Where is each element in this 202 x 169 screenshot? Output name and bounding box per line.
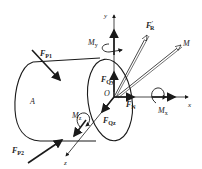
my-curl-icon bbox=[102, 44, 122, 52]
mz-label: Mz bbox=[71, 111, 82, 121]
fp1-label: FP1 bbox=[39, 49, 52, 59]
fp2-label: FP2 bbox=[11, 146, 24, 156]
fn-label: FN bbox=[125, 100, 136, 110]
mx-label: Mx bbox=[157, 106, 168, 116]
z-axis-label: z bbox=[63, 159, 67, 167]
free-body-diagram: A O y x z FP1 FP2 F'R M My Mx Mz FQy FQz… bbox=[0, 0, 202, 169]
body-label: A bbox=[29, 97, 35, 106]
fr-prime-arrow-inner bbox=[116, 36, 149, 97]
moment-resultant-arrow-inner bbox=[118, 47, 182, 98]
fqz-label: FQz bbox=[102, 116, 116, 126]
moment-resultant-arrow bbox=[116, 45, 181, 97]
labels: A O y x z FP1 FP2 F'R M My Mx Mz FQy FQz… bbox=[11, 12, 192, 167]
x-axis-label: x bbox=[187, 101, 192, 109]
fqz-arrow bbox=[102, 97, 114, 112]
mx-curl-icon bbox=[152, 88, 165, 103]
y-axis-label: y bbox=[103, 12, 108, 20]
fqy-label: FQy bbox=[100, 75, 114, 85]
fr-prime-label: F'R bbox=[145, 20, 155, 31]
axes bbox=[66, 15, 188, 156]
my-label: My bbox=[87, 38, 98, 48]
origin-label: O bbox=[104, 89, 110, 98]
fp2-arrow bbox=[28, 140, 62, 163]
cylinder-left-end bbox=[15, 62, 40, 141]
moment-resultant-label: M bbox=[182, 39, 191, 48]
